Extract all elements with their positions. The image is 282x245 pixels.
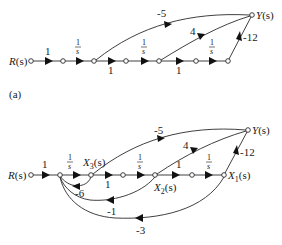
label-b-y: Y(s) [252,124,270,137]
gain-a-minus5: -5 [157,7,167,19]
label-b-x2: X2(s) [153,181,177,196]
gain-a-1c: 1 [176,64,182,76]
arrow-a-ff-4 [197,33,205,40]
node-b-x1 [222,173,227,178]
gain-a-4: 4 [190,25,196,37]
arrow-b-2 [73,171,81,179]
gain-b-1s-den: s [68,162,71,171]
label-a-y: Y(s) [256,9,274,22]
node-b-6 [190,173,195,178]
arrow-b-5 [172,171,180,179]
gain-a-1: 1 [45,45,51,57]
arrow-b-6 [205,171,213,179]
node-b-y [246,128,251,133]
node-a-r [29,59,34,64]
gain-b-1s3-num: 1 [207,153,211,162]
gain-b-4: 4 [183,139,189,151]
gain-b-minus3: -3 [136,224,146,236]
gain-a-1s3-num: 1 [210,38,214,47]
node-b-x3 [89,173,94,178]
edge-b-fb-minus6 [61,177,91,186]
node-b-sum [58,173,63,178]
gain-a-1s2-den: s [142,47,145,56]
gain-b-minus6: -6 [75,187,85,199]
edge-b-fb-minus3 [60,177,224,218]
node-a-y [250,13,255,18]
arrow-a-2 [76,57,84,65]
arrow-a-1 [45,57,53,65]
caption-a: (a) [9,88,22,101]
gain-b-1b: 1 [105,178,111,190]
label-b-r: R(s) [7,169,27,182]
gain-a-1s-num: 1 [76,38,80,47]
node-b-r [29,173,34,178]
diagram-a: R(s) Y(s) 1 1 s 1 1 s 1 1 s -5 4 -12 (a) [8,7,274,101]
gain-a-minus12: -12 [243,31,258,43]
signal-flow-graphs: R(s) Y(s) 1 1 s 1 1 s 1 1 s -5 4 -12 (a) [0,0,282,245]
gain-b-minus5: -5 [154,124,164,136]
gain-b-1s3-den: s [207,162,210,171]
arrow-a-4 [141,57,149,65]
gain-b-1c: 1 [176,158,182,170]
arrow-b-fb-minus3 [135,214,143,222]
gain-b-1s-num: 1 [68,153,72,162]
diagram-b: R(s) Y(s) X3(s) X2(s) X1(s) 1 1 s 1 1 s … [7,124,270,236]
arrow-a-6 [209,57,217,65]
arrow-b-1 [42,171,50,179]
label-a-r: R(s) [8,55,28,68]
gain-b-1s2-den: s [138,162,141,171]
arrow-b-ff-minus5 [157,135,165,142]
gain-b-minus1: -1 [107,205,116,217]
gain-a-1s-den: s [76,47,79,56]
gain-b-minus12: -12 [240,146,255,158]
node-a-3 [92,59,97,64]
gain-a-1b: 1 [108,64,114,76]
gain-b-1s2-num: 1 [138,153,142,162]
node-a-7 [226,59,231,64]
gain-b-1: 1 [42,158,48,170]
arrow-b-4 [137,171,145,179]
arrow-b-fb-minus1 [106,196,114,204]
gain-a-1s2-num: 1 [142,38,146,47]
node-a-4 [124,59,129,64]
edge-b-ff-4 [157,131,246,174]
node-a-5 [157,59,162,64]
label-b-x3: X3(s) [82,156,106,171]
edge-b-ff-minus5 [93,129,246,174]
node-a-6 [194,59,199,64]
arrow-b-ff-minus12 [233,145,239,155]
node-b-x2 [153,173,158,178]
label-b-x1: X1(s) [227,169,251,184]
gain-a-1s3-den: s [210,47,213,56]
node-a-2 [61,59,66,64]
node-b-4 [121,173,126,178]
